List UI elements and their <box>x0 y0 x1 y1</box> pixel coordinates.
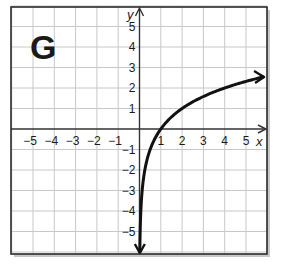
y-tick-label: 2 <box>129 81 136 95</box>
x-tick-label: 2 <box>179 134 186 148</box>
x-tick-label: −1 <box>108 134 122 148</box>
x-tick-label: 1 <box>157 134 164 148</box>
y-tick-label: −4 <box>122 204 136 218</box>
x-tick-label: −4 <box>44 134 58 148</box>
y-tick-label: 1 <box>129 102 136 116</box>
x-tick-label: 3 <box>200 134 207 148</box>
x-tick-label: −2 <box>87 134 101 148</box>
y-tick-label: −1 <box>122 143 136 157</box>
y-tick-label: 3 <box>129 61 136 75</box>
x-tick-label: 4 <box>221 134 228 148</box>
y-tick-label: −5 <box>122 225 136 239</box>
panel-label: G <box>30 28 56 66</box>
y-tick-label: −2 <box>122 163 136 177</box>
x-tick-label: −3 <box>66 134 80 148</box>
y-tick-label: 4 <box>129 40 136 54</box>
y-tick-label: −3 <box>122 184 136 198</box>
x-axis-label: x <box>255 134 263 149</box>
graph-canvas: −5−4−3−2−11234554321−1−2−3−4−5 G x y <box>0 0 289 274</box>
x-tick-label: −5 <box>23 134 37 148</box>
chart: −5−4−3−2−11234554321−1−2−3−4−5 G x y <box>0 0 289 274</box>
x-tick-label: 5 <box>243 134 250 148</box>
